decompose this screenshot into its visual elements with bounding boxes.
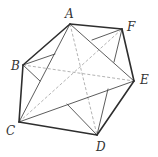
hidden-edge-ad [70, 24, 97, 135]
edge-segment-bf [23, 54, 55, 65]
vertex-label-f: F [126, 20, 136, 34]
polyhedron-diagram: A B C D E F [0, 0, 158, 157]
vertex-label-a: A [64, 7, 74, 21]
edge-segment-fb [92, 29, 122, 40]
outer-edge-cb [19, 65, 23, 122]
outer-edge-ed [97, 81, 134, 135]
outer-edge-ba [23, 24, 70, 65]
edge-segment-bd [23, 65, 40, 81]
vertex-label-e: E [139, 73, 149, 87]
hidden-edge-be [23, 65, 134, 81]
outer-edge-af [70, 24, 122, 29]
edge-ce [19, 81, 134, 122]
edge-ae [70, 24, 134, 81]
outer-edges [19, 24, 134, 135]
edge-segment-fd [114, 29, 122, 62]
vertex-label-b: B [10, 59, 20, 73]
hidden-edges [19, 24, 134, 135]
edge-ac [19, 24, 70, 122]
outer-edge-dc [19, 122, 97, 135]
vertex-label-c: C [6, 124, 15, 138]
outer-edge-fe [122, 29, 134, 81]
vertex-label-d: D [95, 140, 106, 154]
